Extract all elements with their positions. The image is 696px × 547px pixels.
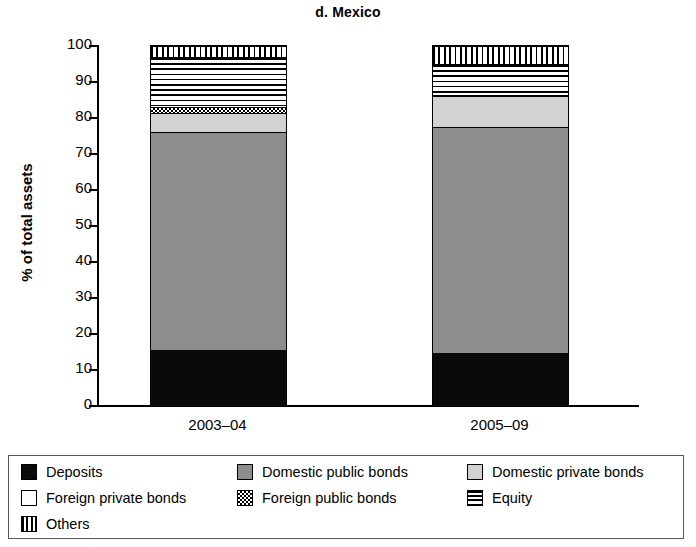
y-tick-mark (89, 45, 98, 47)
y-tick-label: 10 (22, 359, 92, 376)
bar-segment[interactable] (433, 95, 568, 97)
bar-segment[interactable] (151, 107, 286, 112)
y-tick-mark (89, 297, 98, 299)
y-tick-mark (89, 405, 98, 407)
y-tick-mark (89, 261, 98, 263)
y-tick-label: 50 (22, 215, 92, 232)
legend-swatch-icon (21, 490, 37, 506)
bar-segment[interactable] (433, 96, 568, 127)
y-tick-label: 90 (22, 71, 92, 88)
y-tick-label: 100 (22, 35, 92, 52)
y-tick-mark (89, 333, 98, 335)
legend-item-label: Foreign public bonds (262, 490, 397, 506)
bar-segment[interactable] (151, 113, 286, 133)
y-tick-label: 0 (22, 395, 92, 412)
legend-swatch-icon (21, 464, 37, 480)
legend-item-label: Domestic private bonds (492, 464, 644, 480)
legend-item-label: Foreign private bonds (46, 490, 186, 506)
legend-item[interactable]: Deposits (21, 464, 102, 480)
y-tick-label: 60 (22, 179, 92, 196)
legend-swatch-icon (467, 490, 483, 506)
y-tick-mark (89, 369, 98, 371)
stacked-bar[interactable] (432, 45, 569, 407)
page-title: d. Mexico (0, 4, 696, 20)
legend-item[interactable]: Equity (467, 490, 532, 506)
legend-swatch-icon (237, 490, 253, 506)
legend-swatch-icon (21, 516, 37, 532)
legend-item-label: Others (46, 516, 90, 532)
chart-plot-area: % of total assets 0102030405060708090100… (0, 24, 696, 444)
x-axis-label: 2003–04 (150, 416, 285, 433)
legend-item-label: Domestic public bonds (262, 464, 408, 480)
y-tick-mark (89, 81, 98, 83)
bar-segment[interactable] (151, 57, 286, 107)
bar-segment[interactable] (433, 353, 568, 406)
legend-swatch-icon (467, 464, 483, 480)
y-tick-mark (89, 153, 98, 155)
y-tick-mark (89, 117, 98, 119)
legend-item[interactable]: Others (21, 516, 90, 532)
bar-segment[interactable] (151, 350, 286, 406)
chart-legend: DepositsDomestic public bondsDomestic pr… (8, 455, 684, 539)
bar-segment[interactable] (433, 64, 568, 95)
y-tick-label: 80 (22, 107, 92, 124)
legend-swatch-icon (237, 464, 253, 480)
legend-item[interactable]: Domestic private bonds (467, 464, 644, 480)
bar-segment[interactable] (433, 127, 568, 353)
bar-segment[interactable] (151, 46, 286, 57)
y-tick-mark (89, 189, 98, 191)
y-tick-label: 70 (22, 143, 92, 160)
legend-item-label: Equity (492, 490, 532, 506)
y-tick-mark (89, 225, 98, 227)
legend-item-label: Deposits (46, 464, 102, 480)
x-axis-label: 2005–09 (432, 416, 567, 433)
y-tick-label: 40 (22, 251, 92, 268)
legend-item[interactable]: Domestic public bonds (237, 464, 408, 480)
y-tick-label: 30 (22, 287, 92, 304)
bar-segment[interactable] (151, 132, 286, 350)
legend-item[interactable]: Foreign private bonds (21, 490, 186, 506)
bar-segment[interactable] (433, 46, 568, 64)
legend-item[interactable]: Foreign public bonds (237, 490, 397, 506)
y-tick-label: 20 (22, 323, 92, 340)
stacked-bar[interactable] (150, 45, 287, 407)
